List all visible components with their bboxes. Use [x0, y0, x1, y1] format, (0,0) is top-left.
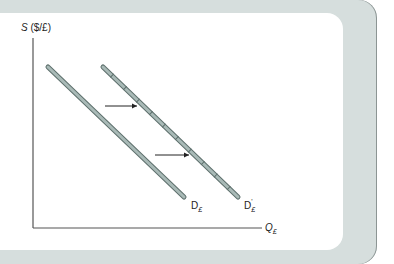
- curve-label-d: D£: [191, 200, 202, 211]
- demand-shift-diagram: [0, 0, 394, 264]
- curve-label-d-prime: D£': [244, 200, 252, 211]
- y-axis-label: S ($/£): [21, 22, 51, 33]
- x-axis-label: Q£: [265, 222, 277, 233]
- demand-curve-d-prime: [103, 67, 238, 197]
- demand-curve-d: [48, 67, 184, 197]
